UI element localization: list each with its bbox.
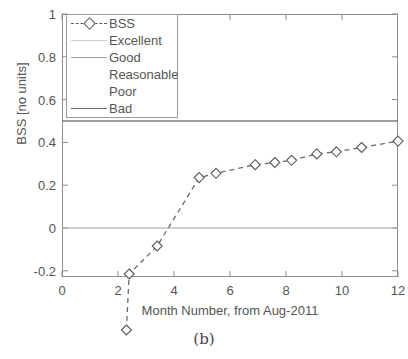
xtick-label-6: 6 — [215, 284, 245, 297]
xtick-label-10: 10 — [327, 284, 357, 297]
legend-label: Excellent — [109, 34, 162, 47]
legend-sample-line-mid-icon — [69, 51, 109, 65]
legend-label: BSS — [109, 17, 135, 30]
legend-sample-line-light-icon — [69, 34, 109, 48]
xtick-label-0: 0 — [47, 284, 77, 297]
legend-item-poor: Poor — [67, 83, 177, 100]
ytick-label: 0.2 — [2, 179, 56, 192]
y-axis-label: BSS [no units] — [14, 44, 29, 164]
legend-sample-blank-icon — [69, 68, 109, 82]
legend-label: Poor — [109, 85, 136, 98]
figure-caption: (b) — [0, 330, 408, 348]
xtick-label-12: 12 — [383, 284, 408, 297]
legend-item-reasonable: Reasonable — [67, 66, 177, 83]
ytick-label: 0.4 — [2, 136, 56, 149]
bss-series-line — [126, 141, 398, 330]
legend-item-excellent: Excellent — [67, 32, 177, 49]
ytick-label: -0.2 — [2, 265, 56, 278]
figure-panel: 1 0.8 0.6 0.4 0.2 0 -0.2 0 2 4 6 8 10 12… — [0, 0, 408, 359]
legend-label: Bad — [109, 102, 132, 115]
xtick-label-2: 2 — [103, 284, 133, 297]
xtick-label-4: 4 — [159, 284, 189, 297]
legend-item-bad: Bad — [67, 100, 177, 117]
legend-item-good: Good — [67, 49, 177, 66]
legend-item-bss: BSS — [67, 15, 177, 32]
legend-label: Good — [109, 51, 141, 64]
ytick-label: 0 — [2, 222, 56, 235]
x-axis-label: Month Number, from Aug-2011 — [62, 303, 398, 318]
legend-sample-dashed-diamond-icon — [69, 17, 109, 31]
legend-sample-blank-icon — [69, 85, 109, 99]
legend-sample-line-dark-icon — [69, 102, 109, 116]
ytick-label: 1 — [2, 8, 56, 21]
ytick-label: 0.6 — [2, 94, 56, 107]
ytick-label: 0.8 — [2, 51, 56, 64]
legend-label: Reasonable — [109, 68, 178, 81]
chart-legend: BSS Excellent Good Reasonable Poor Ba — [66, 14, 178, 118]
xtick-label-8: 8 — [271, 284, 301, 297]
